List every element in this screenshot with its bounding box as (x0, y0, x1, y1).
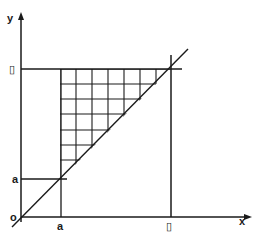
x-b-label: ▯ (166, 220, 172, 232)
region-diagram: y x o a a ▯ ▯ (0, 0, 260, 243)
y-b-label: ▯ (9, 63, 15, 75)
x-a-label: a (57, 220, 64, 232)
x-axis-arrow-icon (244, 214, 252, 220)
y-axis-label: y (7, 12, 14, 24)
shaded-grid (55, 60, 180, 190)
diagonal-line (12, 49, 188, 227)
y-a-label: a (12, 173, 19, 185)
y-axis-arrow-icon (18, 12, 24, 20)
origin-label: o (10, 211, 17, 223)
x-axis-label: x (239, 215, 246, 227)
